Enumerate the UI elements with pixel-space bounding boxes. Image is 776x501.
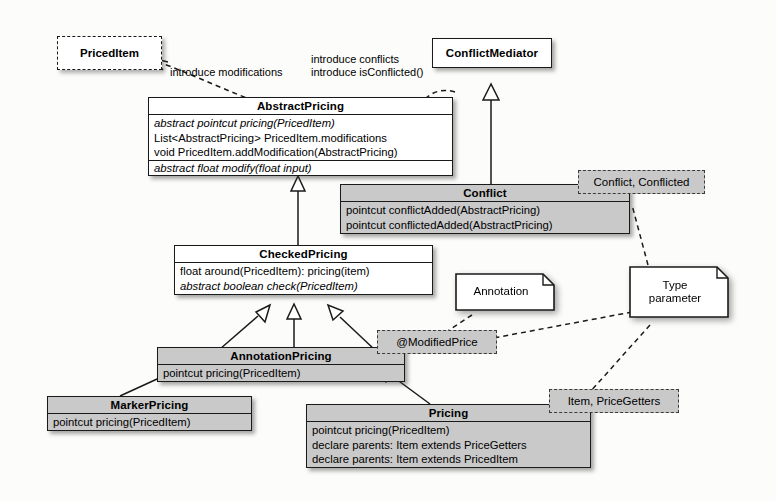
class-abstractpricing[interactable]: AbstractPricing abstract pointcut pricin… — [148, 97, 453, 176]
tag-conflict-conflicted[interactable]: Conflict, Conflicted — [578, 170, 705, 194]
tag-item-pricegetters[interactable]: Item, PriceGetters — [549, 389, 679, 413]
tag-modifiedprice-label: @ModifiedPrice — [396, 336, 477, 348]
member-row: float around(PricedItem): pricing(item) — [175, 264, 432, 279]
class-abstractpricing-members: abstract pointcut pricing(PricedItem) Li… — [149, 115, 452, 176]
class-conflictmediator[interactable]: ConflictMediator — [432, 38, 552, 68]
edge-typeparameter-to-itempricegetters — [590, 325, 650, 392]
member-row: declare parents: Item extends PricedItem — [307, 452, 590, 467]
class-priceditem-name: PricedItem — [80, 47, 139, 59]
note-annotation[interactable]: Annotation — [455, 273, 555, 311]
class-pricing-members: pointcut pricing(PricedItem) declare par… — [307, 422, 590, 468]
class-conflict-members: pointcut conflictAdded(AbstractPricing) … — [341, 202, 629, 233]
edge-annotationpricing-to-checkedpricing — [287, 304, 301, 348]
label-introduce-isconflicted: introduce isConflicted() — [311, 66, 424, 80]
class-annotationpricing-name: AnnotationPricing — [158, 348, 404, 365]
member-row: declare parents: Item extends PriceGette… — [307, 438, 590, 453]
class-checkedpricing[interactable]: CheckedPricing float around(PricedItem):… — [174, 245, 433, 295]
class-markerpricing-name: MarkerPricing — [48, 397, 251, 414]
member-row: pointcut pricing(PricedItem) — [158, 366, 404, 381]
note-type-parameter-line1: Type — [663, 279, 688, 293]
class-pricing-name: Pricing — [307, 405, 590, 422]
label-introduce-modifications: introduce modifications — [170, 66, 283, 80]
class-annotationpricing-members: pointcut pricing(PricedItem) — [158, 365, 404, 382]
note-annotation-label: Annotation — [455, 273, 555, 311]
tag-modifiedprice[interactable]: @ModifiedPrice — [377, 330, 497, 354]
edge-typeparameter-to-conflictconflicted — [632, 205, 648, 265]
uml-diagram-canvas: PricedItem ConflictMediator AbstractPric… — [0, 0, 776, 501]
class-markerpricing-members: pointcut pricing(PricedItem) — [48, 414, 251, 431]
member-row: List<AbstractPricing> PricedItem.modific… — [149, 131, 452, 146]
class-markerpricing[interactable]: MarkerPricing pointcut pricing(PricedIte… — [47, 396, 252, 431]
edge-pricing-to-checkedpricing — [328, 305, 375, 350]
member-row: pointcut conflictAdded(AbstractPricing) — [341, 203, 629, 218]
member-row: pointcut pricing(PricedItem) — [48, 415, 251, 430]
class-checkedpricing-name: CheckedPricing — [175, 246, 432, 263]
edge-checkedpricing-to-abstractpricing — [291, 176, 305, 245]
member-row: pointcut pricing(PricedItem) — [307, 423, 590, 438]
edge-conflict-to-conflictmediator — [483, 84, 499, 186]
member-row: abstract pointcut pricing(PricedItem) — [149, 116, 452, 131]
edge-markerpricing-to-checkedpricing — [220, 305, 270, 349]
note-type-parameter-label: Type parameter — [629, 266, 729, 318]
note-type-parameter[interactable]: Type parameter — [629, 266, 729, 318]
edge-typeparameter-to-modifiedprice — [483, 312, 632, 340]
label-introduce-conflicts: introduce conflicts — [311, 53, 399, 67]
class-annotationpricing[interactable]: AnnotationPricing pointcut pricing(Price… — [157, 347, 405, 382]
class-abstractpricing-name: AbstractPricing — [149, 98, 452, 115]
class-pricing[interactable]: Pricing pointcut pricing(PricedItem) dec… — [306, 404, 591, 468]
tag-conflict-conflicted-label: Conflict, Conflicted — [594, 176, 690, 188]
tag-item-pricegetters-label: Item, PriceGetters — [568, 395, 661, 407]
member-row: void PricedItem.addModification(Abstract… — [149, 145, 452, 160]
member-row: abstract float modify(float input) — [149, 160, 452, 176]
note-type-parameter-line2: parameter — [649, 292, 701, 306]
class-conflictmediator-name: ConflictMediator — [433, 39, 551, 67]
class-priceditem[interactable]: PricedItem — [57, 36, 162, 70]
class-checkedpricing-members: float around(PricedItem): pricing(item) … — [175, 263, 432, 294]
member-row: pointcut conflictedAdded(AbstractPricing… — [341, 218, 629, 233]
member-row: abstract boolean check(PricedItem) — [175, 279, 432, 294]
